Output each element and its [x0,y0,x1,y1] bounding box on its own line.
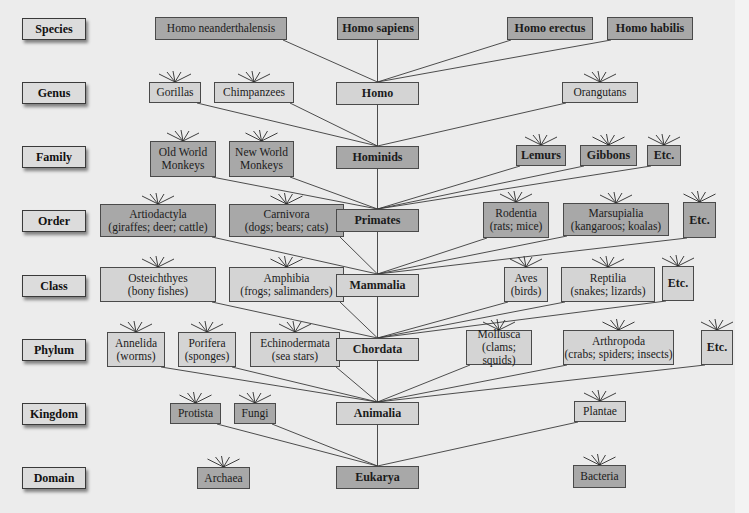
branch-burst-icon [246,133,262,141]
taxon-node-sapiens: Homo sapiens [337,17,419,40]
branch-burst-icon [238,74,254,82]
branch-burst-icon [120,324,136,332]
taxon-node-animalia: Animalia [336,402,419,425]
branch-burst-icon [500,194,516,202]
taxon-node-reptilia: Reptilia (snakes; lizards) [561,267,655,302]
taxon-node-mammalia: Mammalia [336,274,419,297]
branch-burst-icon [593,137,609,145]
branch-burst-icon [510,259,526,267]
taxon-node-chordata: Chordata [336,338,419,361]
taxon-node-eukarya: Eukarya [336,466,419,489]
branch-burst-icon [180,395,196,403]
branch-burst-icon [208,459,224,467]
taxon-node-bacteria: Bacteria [573,465,626,488]
taxon-node-arthro: Arthropoda (crabs; spiders; insects) [563,330,674,365]
connector-line [272,424,378,466]
connector-line [283,40,378,82]
taxon-node-gorillas: Gorillas [149,82,201,103]
branch-burst-icon [142,196,158,204]
taxon-node-ord_etc: Etc. [683,202,716,238]
taxon-node-gibbons: Gibbons [580,145,637,166]
connector-line [378,103,567,146]
taxon-node-rodentia: Rodentia (rats; mice) [483,202,549,238]
connector-line [340,302,378,338]
branch-burst-icon [584,74,600,82]
branch-burst-icon [584,457,600,465]
rank-label-domain: Domain [22,467,86,489]
taxon-node-habilis: Homo habilis [607,17,693,40]
taxon-node-artio: Artiodactyla (giraffes; deer; cattle) [100,204,216,237]
taxon-node-nwm: New World Monkeys [229,141,294,177]
branch-burst-icon [142,259,158,267]
taxon-node-porifera: Porifera (sponges) [178,332,236,367]
rank-label-species: Species [22,18,86,40]
taxon-node-neander: Homo neanderthalensis [155,17,287,40]
connector-line [161,367,378,402]
taxon-node-homo: Homo [336,82,419,105]
taxon-node-echino: Echinodermata (sea stars) [250,332,340,367]
taxon-node-archaea: Archaea [197,467,250,489]
connector-line [378,422,579,466]
taxon-node-mollusca: Mollusca (clams; squids) [466,330,532,365]
taxon-node-primates: Primates [336,209,419,232]
rank-label-kingdom: Kingdom [22,403,86,425]
taxon-node-carni: Carnivora (dogs; bears; cats) [229,204,344,237]
taxon-node-osteich: Osteichthyes (bony fishes) [100,267,216,302]
branch-burst-icon [592,259,608,267]
taxon-node-plantae: Plantae [574,401,626,422]
branch-burst-icon [271,259,287,267]
taxon-node-chimps: Chimpanzees [214,82,294,103]
branch-burst-icon [684,194,700,202]
branch-burst-icon [648,137,664,145]
taxon-node-cls_etc: Etc. [662,266,694,301]
connector-line [378,365,706,402]
taxon-node-fungi: Fungi [234,403,276,424]
taxon-node-annelida: Annelida (worms) [107,332,165,367]
rank-label-genus: Genus [22,82,86,104]
taxon-node-protista: Protista [170,403,221,424]
connector-line [197,103,378,146]
connector-line [217,424,378,466]
connector-line [378,166,585,209]
branch-burst-icon [191,324,207,332]
branch-burst-icon [167,133,183,141]
branch-burst-icon [584,393,600,401]
taxon-node-orangutans: Orangutans [562,82,638,103]
connector-line [290,103,378,146]
rank-label-family: Family [22,146,86,168]
taxon-node-amphibia: Amphibia (frogs; salimanders) [229,267,344,302]
rank-label-order: Order [22,210,86,232]
branch-burst-icon [662,258,678,266]
taxon-node-hominids: Hominids [336,146,419,169]
rank-label-phylum: Phylum [22,339,86,361]
taxon-node-owm: Old World Monkeys [150,141,216,177]
taxon-node-aves: Aves (birds) [504,267,548,302]
taxon-node-lemurs: Lemurs [516,145,566,166]
branch-burst-icon [525,137,541,145]
connector-line [378,238,488,274]
taxon-node-fam_etc: Etc. [647,145,681,166]
connector-lines [0,0,749,513]
branch-burst-icon [279,324,295,332]
connector-line [378,40,512,82]
connector-line [378,40,612,82]
branch-burst-icon [239,395,255,403]
branch-burst-icon [271,196,287,204]
rank-label-class: Class [22,275,86,297]
connector-line [340,237,378,274]
branch-burst-icon [701,322,717,330]
taxon-node-erectus: Homo erectus [507,17,593,40]
branch-burst-icon [600,195,616,203]
branch-burst-icon [603,322,619,330]
taxon-node-phy_etc: Etc. [701,330,733,365]
taxon-node-marsu: Marsupialia (kangaroos; koalas) [563,203,669,236]
taxonomy-diagram: SpeciesGenusFamilyOrderClassPhylumKingdo… [0,0,749,513]
branch-burst-icon [159,74,175,82]
